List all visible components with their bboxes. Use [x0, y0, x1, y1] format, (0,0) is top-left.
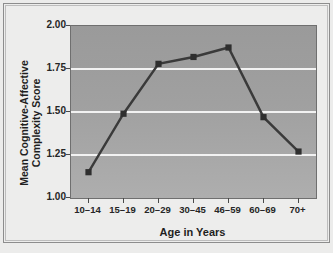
x-tick-mark-0: [88, 198, 89, 203]
data-point-1: [120, 111, 126, 117]
x-tick-label-3: 30–45: [179, 204, 205, 215]
x-tick-label-4: 46–59: [214, 204, 240, 215]
x-tick-label-6: 70+: [289, 204, 305, 215]
x-tick-label-5: 60–69: [249, 204, 275, 215]
x-tick-mark-4: [228, 198, 229, 203]
figure-container: Mean Cognitive-Affective Complexity Scor…: [0, 0, 333, 253]
x-tick-mark-1: [123, 198, 124, 203]
data-point-3: [190, 54, 196, 60]
y-axis-title-line-1: Mean Cognitive-Affective: [18, 38, 30, 208]
x-tick-mark-3: [193, 198, 194, 203]
data-point-4: [225, 44, 231, 50]
data-point-6: [295, 148, 301, 154]
line-series: [71, 26, 316, 198]
x-tick-mark-5: [263, 198, 264, 203]
data-point-5: [260, 114, 266, 120]
x-tick-label-0: 10–14: [74, 204, 100, 215]
x-tick-label-1: 15–19: [109, 204, 135, 215]
data-point-2: [155, 61, 161, 67]
x-tick-mark-6: [298, 198, 299, 203]
data-point-0: [85, 169, 91, 175]
y-axis-title: Mean Cognitive-Affective Complexity Scor…: [18, 38, 42, 208]
x-axis-title: Age in Years: [70, 226, 315, 238]
x-tick-label-2: 20–29: [144, 204, 170, 215]
data-point-markers: [85, 44, 301, 175]
y-axis-title-line-2: Complexity Score: [30, 38, 42, 208]
plot-area: [70, 25, 317, 199]
x-tick-mark-2: [158, 198, 159, 203]
